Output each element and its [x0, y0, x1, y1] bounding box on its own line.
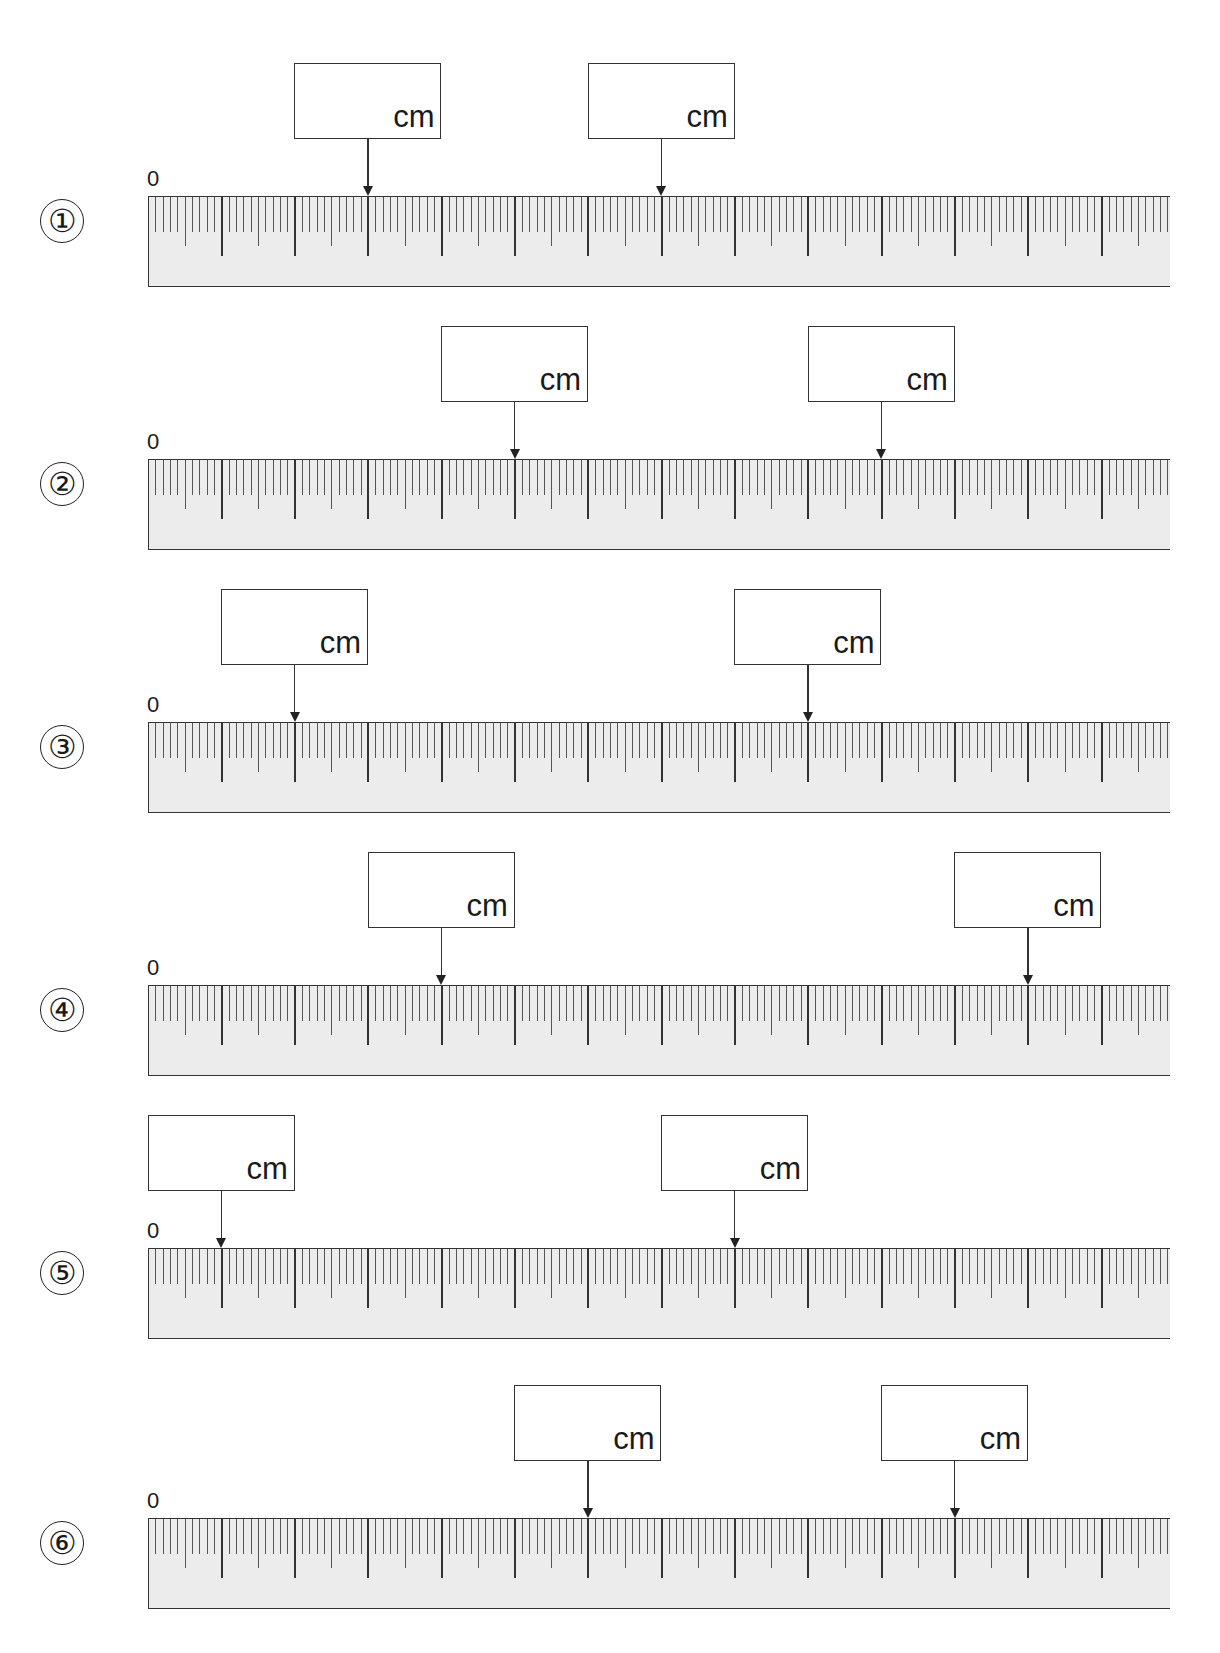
- mm-tick: [962, 1249, 963, 1284]
- pointer-arrow: [807, 665, 809, 712]
- mm-tick: [617, 1519, 618, 1554]
- mm-tick: [625, 1249, 626, 1298]
- mm-tick: [1013, 1249, 1014, 1284]
- unit-label: cm: [613, 1422, 654, 1456]
- answer-box[interactable]: cm: [441, 326, 588, 402]
- mm-tick: [478, 1519, 479, 1568]
- mm-tick: [493, 460, 494, 495]
- cm-tick: [441, 723, 443, 782]
- cm-tick: [734, 723, 736, 782]
- arrow-head-icon: [216, 1238, 226, 1248]
- mm-tick: [199, 1519, 200, 1554]
- answer-box[interactable]: cm: [734, 589, 881, 665]
- mm-tick: [1160, 1249, 1161, 1284]
- answer-box[interactable]: cm: [514, 1385, 661, 1461]
- mm-tick: [1079, 460, 1080, 495]
- mm-tick: [786, 723, 787, 758]
- cm-tick: [294, 723, 296, 782]
- problem-number: ⑤: [40, 1251, 84, 1295]
- mm-tick: [1109, 460, 1110, 495]
- mm-tick: [617, 986, 618, 1021]
- unit-label: cm: [1053, 889, 1094, 923]
- mm-tick: [654, 1249, 655, 1284]
- mm-tick: [390, 986, 391, 1021]
- mm-tick: [867, 1519, 868, 1554]
- mm-tick: [317, 723, 318, 758]
- mm-tick: [1021, 1519, 1022, 1554]
- mm-tick: [837, 1519, 838, 1554]
- answer-box[interactable]: cm: [148, 1115, 295, 1191]
- answer-box[interactable]: cm: [881, 1385, 1028, 1461]
- mm-tick: [537, 460, 538, 495]
- answer-box[interactable]: cm: [221, 589, 368, 665]
- mm-tick: [251, 723, 252, 758]
- answer-box[interactable]: cm: [808, 326, 955, 402]
- mm-tick: [1167, 460, 1168, 495]
- mm-tick: [830, 986, 831, 1021]
- mm-tick: [1072, 1519, 1073, 1554]
- mm-tick: [771, 723, 772, 772]
- mm-tick: [793, 723, 794, 758]
- mm-tick: [463, 1519, 464, 1554]
- mm-tick: [911, 723, 912, 758]
- mm-tick: [566, 1249, 567, 1284]
- mm-tick: [691, 1519, 692, 1554]
- mm-tick: [199, 723, 200, 758]
- answer-box[interactable]: cm: [661, 1115, 808, 1191]
- mm-tick: [390, 1519, 391, 1554]
- answer-box[interactable]: cm: [954, 852, 1101, 928]
- mm-tick: [977, 1249, 978, 1284]
- mm-tick: [683, 986, 684, 1021]
- mm-tick: [339, 1249, 340, 1284]
- mm-tick: [764, 1519, 765, 1554]
- ruler: [148, 985, 1170, 1076]
- mm-tick: [925, 1519, 926, 1554]
- cm-tick: [954, 986, 956, 1045]
- mm-tick: [713, 460, 714, 495]
- mm-tick: [485, 723, 486, 758]
- cm-tick: [734, 460, 736, 519]
- mm-tick: [559, 1249, 560, 1284]
- mm-tick: [243, 1519, 244, 1554]
- mm-tick: [896, 986, 897, 1021]
- mm-tick: [287, 460, 288, 495]
- mm-tick: [390, 1249, 391, 1284]
- mm-tick: [1087, 986, 1088, 1021]
- mm-tick: [911, 460, 912, 495]
- mm-tick: [258, 460, 259, 509]
- mm-tick: [830, 1519, 831, 1554]
- mm-tick: [192, 723, 193, 758]
- mm-tick: [280, 1519, 281, 1554]
- mm-tick: [1123, 1249, 1124, 1284]
- mm-tick: [720, 1519, 721, 1554]
- mm-tick: [991, 1249, 992, 1298]
- mm-tick: [287, 1519, 288, 1554]
- cm-tick: [807, 723, 809, 782]
- mm-tick: [1043, 1519, 1044, 1554]
- mm-tick: [361, 1519, 362, 1554]
- cm-tick: [881, 1249, 883, 1308]
- mm-tick: [485, 1519, 486, 1554]
- mm-tick: [500, 723, 501, 758]
- mm-tick: [383, 1249, 384, 1284]
- mm-tick: [265, 1519, 266, 1554]
- cm-tick: [294, 1249, 296, 1308]
- answer-box[interactable]: cm: [368, 852, 515, 928]
- arrow-head-icon: [510, 449, 520, 459]
- cm-tick: [514, 723, 516, 782]
- mm-tick: [823, 1519, 824, 1554]
- mm-tick: [207, 460, 208, 495]
- mm-tick: [903, 460, 904, 495]
- mm-tick: [742, 1249, 743, 1284]
- mm-tick: [1050, 723, 1051, 758]
- mm-tick: [669, 723, 670, 758]
- mm-tick: [214, 460, 215, 495]
- mm-tick: [361, 1249, 362, 1284]
- mm-tick: [383, 723, 384, 758]
- cm-tick: [294, 986, 296, 1045]
- cm-tick: [661, 460, 663, 519]
- mm-tick: [317, 986, 318, 1021]
- mm-tick: [236, 723, 237, 758]
- mm-tick: [1050, 1519, 1051, 1554]
- mm-tick: [456, 460, 457, 495]
